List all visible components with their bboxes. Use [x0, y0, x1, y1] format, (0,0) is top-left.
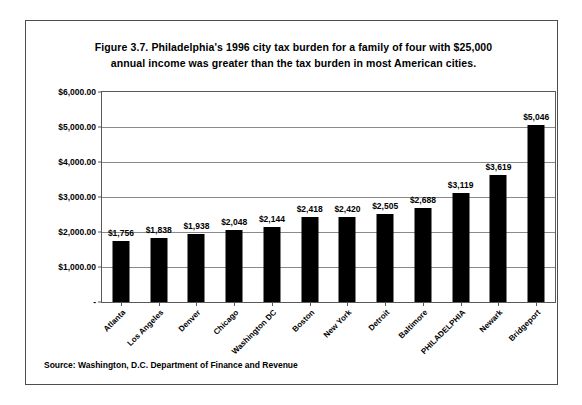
x-axis-tick — [234, 302, 235, 306]
x-axis-tick — [423, 302, 424, 306]
x-axis-tick — [196, 302, 197, 306]
y-axis-label: $2,000.00 — [58, 227, 96, 237]
bar-group[interactable]: $3,619Newark — [480, 92, 518, 302]
bar-value-label: $3,619 — [485, 162, 511, 172]
bar[interactable] — [414, 208, 431, 302]
bar-value-label: $2,144 — [259, 214, 285, 224]
bar[interactable] — [112, 241, 129, 302]
bar-value-label: $1,938 — [183, 221, 209, 231]
y-axis-label: $1,000.00 — [58, 262, 96, 272]
bar-group[interactable]: $1,938Denver — [178, 92, 216, 302]
bar-value-label: $3,119 — [448, 180, 474, 190]
x-axis-tick — [159, 302, 160, 306]
figure-frame: Figure 3.7. Philadelphia's 1996 city tax… — [25, 20, 558, 385]
bar-series: $1,756Atlanta$1,838Los Angeles$1,938Denv… — [102, 92, 555, 302]
x-axis-category-label: Denver — [177, 308, 203, 334]
chart-title-line-1: Figure 3.7. Philadelphia's 1996 city tax… — [56, 39, 531, 55]
plot-area: -$1,000.00$2,000.00$3,000.00$4,000.00$5,… — [101, 91, 556, 303]
bar-value-label: $1,838 — [146, 225, 172, 235]
x-axis-category-label: Chicago — [212, 308, 241, 337]
bar[interactable] — [263, 227, 280, 302]
x-axis-category-label: Boston — [290, 308, 316, 334]
x-axis-tick — [461, 302, 462, 306]
bar-group[interactable]: $5,046Bridgeport — [517, 92, 555, 302]
bar-value-label: $5,046 — [523, 112, 549, 122]
bar[interactable] — [339, 217, 356, 302]
bar-value-label: $2,420 — [334, 204, 360, 214]
x-axis-category-label: Detroit — [367, 308, 392, 333]
bar-group[interactable]: $3,119PHILADELPHIA — [442, 92, 480, 302]
bar-group[interactable]: $1,756Atlanta — [102, 92, 140, 302]
bar[interactable] — [377, 214, 394, 302]
chart-title-line-2: annual income was greater than the tax b… — [56, 55, 531, 71]
x-axis-tick — [385, 302, 386, 306]
bar[interactable] — [188, 234, 205, 302]
x-axis-tick — [498, 302, 499, 306]
y-axis-label: - — [93, 297, 96, 307]
bar[interactable] — [452, 193, 469, 302]
y-axis-label: $4,000.00 — [58, 157, 96, 167]
bar[interactable] — [490, 175, 507, 302]
bar-value-label: $2,505 — [372, 201, 398, 211]
bar-group[interactable]: $2,688Baltimore — [404, 92, 442, 302]
bar-group[interactable]: $2,144Washington DC — [253, 92, 291, 302]
x-axis-category-label: Newark — [478, 308, 504, 334]
bar[interactable] — [226, 230, 243, 302]
bar-value-label: $2,688 — [410, 195, 436, 205]
x-axis-category-label: New York — [322, 308, 354, 340]
bar-value-label: $2,418 — [297, 204, 323, 214]
x-axis-category-label: Baltimore — [397, 308, 429, 340]
chart-title: Figure 3.7. Philadelphia's 1996 city tax… — [56, 39, 531, 71]
x-axis-tick — [121, 302, 122, 306]
x-axis-category-label: Atlanta — [102, 308, 128, 334]
x-axis-tick — [347, 302, 348, 306]
bar[interactable] — [528, 125, 545, 302]
bar-group[interactable]: $2,418Boston — [291, 92, 329, 302]
x-axis-category-label: Los Angeles — [125, 308, 165, 348]
y-axis-label: $5,000.00 — [58, 122, 96, 132]
y-axis-label: $3,000.00 — [58, 192, 96, 202]
y-axis-label: $6,000.00 — [58, 87, 96, 97]
bar-value-label: $1,756 — [108, 228, 134, 238]
bar-group[interactable]: $1,838Los Angeles — [140, 92, 178, 302]
x-axis-tick — [310, 302, 311, 306]
bar-group[interactable]: $2,048Chicago — [215, 92, 253, 302]
bar-value-label: $2,048 — [221, 217, 247, 227]
source-note: Source: Washington, D.C. Department of F… — [44, 360, 298, 370]
x-axis-tick — [536, 302, 537, 306]
bar[interactable] — [150, 238, 167, 302]
bar-group[interactable]: $2,420New York — [329, 92, 367, 302]
bar[interactable] — [301, 217, 318, 302]
x-axis-category-label: Bridgeport — [507, 308, 542, 343]
bar-group[interactable]: $2,505Detroit — [366, 92, 404, 302]
x-axis-tick — [272, 302, 273, 306]
